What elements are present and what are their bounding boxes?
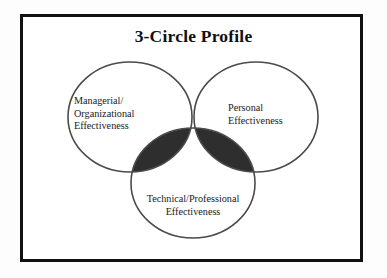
circle-label-personal: PersonalEffectiveness bbox=[228, 102, 324, 127]
figure-page: 3-Circle Profile bbox=[0, 0, 387, 278]
circle-technical bbox=[131, 128, 255, 238]
circle-label-managerial: Managerial/OrganizationalEffectiveness bbox=[74, 95, 170, 133]
venn-diagram bbox=[0, 0, 387, 278]
circle-label-technical: Technical/ProfessionalEffectiveness bbox=[115, 193, 271, 218]
